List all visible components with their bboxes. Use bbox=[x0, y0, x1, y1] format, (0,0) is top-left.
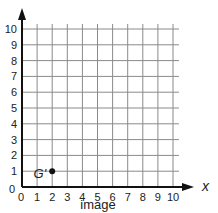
y-tick-label: 1 bbox=[11, 165, 17, 177]
point-label: G' bbox=[34, 166, 47, 181]
y-axis-arrow-icon bbox=[18, 8, 26, 20]
point-marker bbox=[49, 168, 55, 174]
y-tick-label: 6 bbox=[11, 86, 17, 98]
x-tick-label: 8 bbox=[140, 191, 146, 203]
x-tick-label: 2 bbox=[49, 191, 55, 203]
x-axis-arrow-icon bbox=[182, 183, 194, 191]
x-tick-label: 7 bbox=[125, 191, 131, 203]
y-tick-label: 4 bbox=[11, 118, 17, 130]
y-tick-labels: 012345678910 bbox=[5, 23, 17, 195]
x-tick-label: 9 bbox=[155, 191, 161, 203]
y-tick-label: 5 bbox=[11, 102, 17, 114]
y-tick-label: 7 bbox=[11, 70, 17, 82]
axes bbox=[18, 8, 194, 191]
caption: image bbox=[80, 197, 115, 212]
y-tick-label: 9 bbox=[11, 39, 17, 51]
x-tick-label: 1 bbox=[34, 191, 40, 203]
y-tick-label: 0 bbox=[9, 183, 15, 195]
x-tick-label: 0 bbox=[18, 191, 24, 203]
x-tick-label: 3 bbox=[64, 191, 70, 203]
grid-lines bbox=[22, 24, 179, 187]
y-tick-label: 10 bbox=[5, 23, 17, 35]
x-tick-label: 10 bbox=[167, 191, 179, 203]
x-axis-label: x bbox=[201, 178, 210, 194]
y-tick-label: 8 bbox=[11, 55, 17, 67]
coordinate-grid: 012345678910 012345678910 x image G' bbox=[0, 0, 218, 213]
y-tick-label: 3 bbox=[11, 134, 17, 146]
y-tick-label: 2 bbox=[11, 149, 17, 161]
